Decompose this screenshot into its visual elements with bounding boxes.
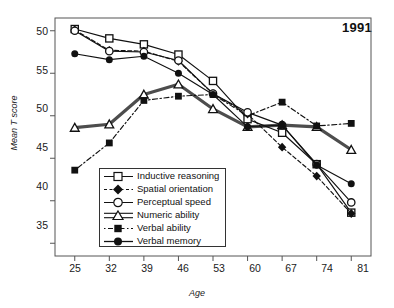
plot-area (0, 0, 394, 308)
legend-label: Numeric ability (137, 209, 199, 220)
filled-square-icon (103, 221, 134, 234)
legend-label: Inductive reasoning (137, 170, 219, 181)
legend-label: Spatial orientation (137, 183, 213, 194)
chart-legend: Inductive reasoning Spatial orientation … (99, 168, 226, 247)
legend-item[interactable]: Verbal memory (100, 234, 225, 247)
legend-item[interactable]: Inductive reasoning (100, 169, 225, 182)
open-square-icon (103, 169, 134, 182)
legend-label: Verbal memory (137, 235, 201, 246)
legend-item[interactable]: Perceptual speed (100, 195, 225, 208)
chart-figure: Mean T score Age 1991 50 55 50 45 40 35 … (0, 0, 394, 308)
legend-item[interactable]: Verbal ability (100, 221, 225, 234)
open-triangle-icon (103, 208, 134, 221)
legend-label: Perceptual speed (137, 196, 211, 207)
legend-item[interactable]: Numeric ability (100, 208, 225, 221)
filled-diamond-icon (103, 182, 134, 195)
filled-circle-icon (103, 234, 134, 247)
open-circle-icon (103, 195, 134, 208)
legend-label: Verbal ability (137, 222, 191, 233)
legend-item[interactable]: Spatial orientation (100, 182, 225, 195)
